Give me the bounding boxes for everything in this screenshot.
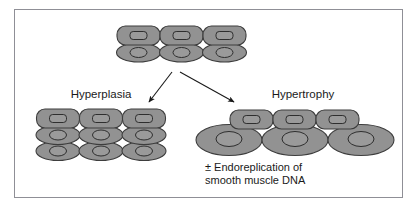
figure-root: Hyperplasia Hypertrophy ± Endoreplicatio…: [0, 0, 420, 209]
hypertrophy-cell-cluster: [196, 110, 394, 156]
cell-rounded-rect: [203, 26, 246, 45]
nucleus: [286, 116, 303, 124]
arrow-to-hypertrophy: [180, 72, 234, 102]
caption-line-2: smooth muscle DNA: [205, 174, 385, 187]
cell-rounded-rect: [230, 110, 273, 129]
nucleus: [50, 130, 67, 140]
cell-rounded-rect: [273, 110, 316, 129]
nucleus: [173, 32, 190, 40]
hypertrophy-row-rects: [230, 110, 359, 129]
nucleus: [136, 130, 153, 140]
hypertrophy-label: Hypertrophy: [238, 88, 368, 102]
nucleus: [216, 32, 233, 40]
endoreplication-caption: ± Endoreplication of smooth muscle DNA: [205, 161, 385, 187]
cell-rounded-rect: [160, 26, 203, 45]
hyperplasia-label: Hyperplasia: [36, 88, 166, 102]
nucleus: [282, 132, 308, 147]
baseline-row-rects: [117, 26, 246, 45]
nucleus: [136, 115, 153, 123]
nucleus: [136, 146, 153, 156]
cell-ellipse: [117, 43, 161, 62]
nucleus: [130, 32, 147, 40]
cell-rounded-rect: [117, 26, 160, 45]
nucleus: [216, 132, 242, 147]
nucleus: [216, 48, 233, 58]
hyperplasia-cell-cluster: [36, 109, 166, 161]
nucleus: [50, 115, 67, 123]
cell-rounded-rect: [123, 109, 166, 128]
caption-line-1: ± Endoreplication of: [205, 161, 385, 174]
cell-ellipse: [160, 43, 204, 62]
nucleus: [93, 115, 110, 123]
baseline-row-ellipses: [117, 43, 247, 62]
baseline-cell-cluster: [117, 26, 247, 62]
cell-rounded-rect: [37, 109, 80, 128]
hyperplasia-row-1: [37, 109, 166, 128]
cell-ellipse: [203, 43, 247, 62]
nucleus: [93, 146, 110, 156]
cell-rounded-rect: [316, 110, 359, 129]
nucleus: [130, 48, 147, 58]
cell-rounded-rect: [80, 109, 123, 128]
nucleus: [243, 116, 260, 124]
nucleus: [50, 146, 67, 156]
nucleus: [93, 130, 110, 140]
nucleus: [329, 116, 346, 124]
nucleus: [173, 48, 190, 58]
nucleus: [348, 132, 374, 147]
